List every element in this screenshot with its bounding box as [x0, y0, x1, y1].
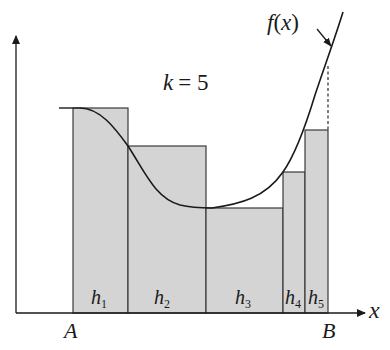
function-pointer-arrow — [317, 29, 331, 46]
riemann-sum-diagram: f(x) k= 5 x A B h1 h2 h3 h4 h5 — [0, 0, 390, 350]
function-label: f(x) — [267, 10, 299, 35]
interval-end-label: B — [322, 318, 335, 343]
k-value-label: k= 5 — [163, 70, 208, 95]
bars — [73, 108, 328, 313]
bar-h1 — [73, 108, 128, 313]
interval-start-label: A — [62, 318, 78, 343]
bar-h2 — [128, 146, 206, 313]
x-axis-label: x — [368, 297, 380, 323]
